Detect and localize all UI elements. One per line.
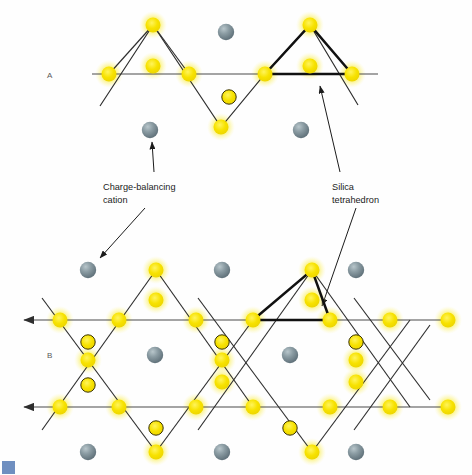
cation-sphere <box>214 262 230 278</box>
cation-sphere <box>218 24 234 40</box>
figure-container: A Charge-balancing cation Silica tetrahe… <box>0 0 472 475</box>
cation-sphere <box>147 347 163 363</box>
cation-sphere <box>142 122 158 138</box>
panel-a-letter: A <box>47 71 53 80</box>
cation-sphere <box>214 444 230 460</box>
panel-b-letter: B <box>47 351 53 360</box>
callout-cation-line2: cation <box>103 195 128 205</box>
callout-silica-line2: tetrahedron <box>332 195 379 205</box>
cation-sphere <box>348 444 364 460</box>
cation-sphere <box>80 444 96 460</box>
diagram-svg: A Charge-balancing cation Silica tetrahe… <box>0 0 472 475</box>
corner-marker <box>2 461 15 474</box>
cation-sphere <box>80 262 96 278</box>
cation-sphere <box>282 347 298 363</box>
panel-a-interior-atom <box>222 90 236 104</box>
callout-cation-line1: Charge-balancing <box>103 182 176 192</box>
cation-sphere <box>348 262 364 278</box>
callout-silica-line1: Silica <box>332 182 355 192</box>
cation-sphere <box>293 122 309 138</box>
